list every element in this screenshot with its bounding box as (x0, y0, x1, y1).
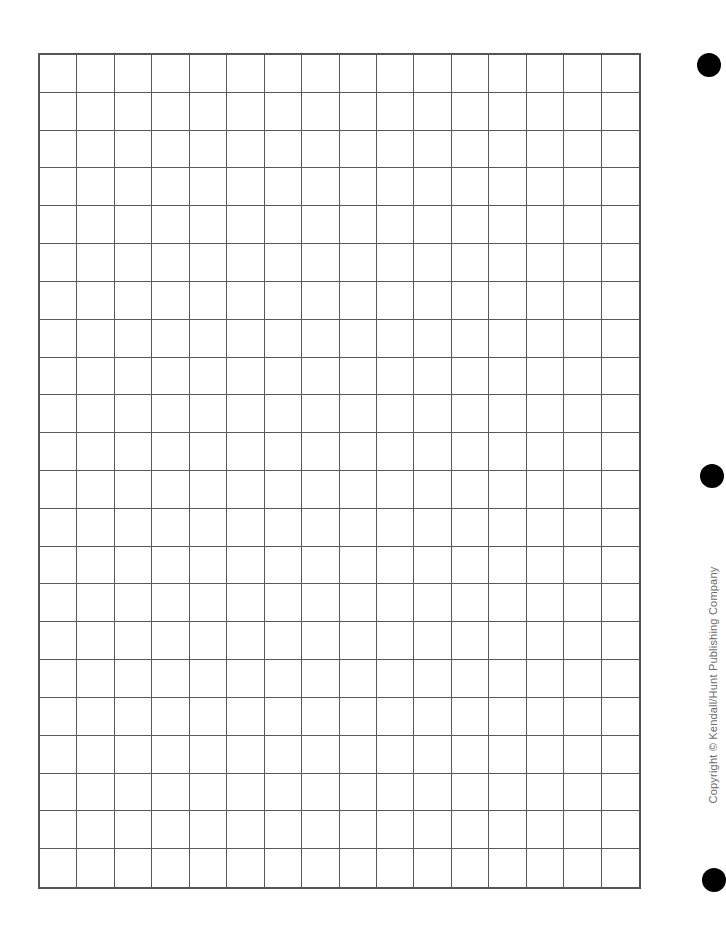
grid-cell (77, 395, 114, 433)
grid-cell (152, 395, 189, 433)
grid-cell (414, 93, 451, 131)
grid-cell (489, 320, 526, 358)
grid-cell (340, 547, 377, 585)
grid-cell (489, 395, 526, 433)
grid-cell (602, 206, 639, 244)
grid-cell (527, 55, 564, 93)
grid-cell (377, 358, 414, 396)
grid-cell (227, 358, 264, 396)
grid-cell (40, 547, 77, 585)
grid-cell (602, 849, 639, 887)
grid-cell (602, 358, 639, 396)
grid-cell (190, 358, 227, 396)
grid-cell (302, 698, 339, 736)
grid-cell (452, 320, 489, 358)
grid-cell (340, 774, 377, 812)
hole-punch-bottom (702, 868, 726, 892)
grid-cell (564, 433, 601, 471)
grid-cell (527, 774, 564, 812)
grid-cell (265, 282, 302, 320)
grid-cell (115, 55, 152, 93)
grid-cell (340, 244, 377, 282)
grid-cell (152, 736, 189, 774)
grid-cell (152, 509, 189, 547)
grid-cell (564, 509, 601, 547)
grid-cell (40, 93, 77, 131)
grid-cell (377, 774, 414, 812)
grid-cell (77, 774, 114, 812)
grid-cell (40, 736, 77, 774)
grid-cell (489, 622, 526, 660)
grid-cell (152, 282, 189, 320)
grid-cell (115, 358, 152, 396)
grid-cell (602, 622, 639, 660)
grid-cell (452, 774, 489, 812)
grid-cell (302, 509, 339, 547)
grid-cell (302, 811, 339, 849)
grid-cell (77, 206, 114, 244)
grid-cell (489, 774, 526, 812)
grid-cell (564, 131, 601, 169)
grid-cell (602, 547, 639, 585)
grid-cell (489, 433, 526, 471)
grid-cell (414, 622, 451, 660)
grid-cell (115, 698, 152, 736)
grid-cell (377, 811, 414, 849)
grid-cell (489, 93, 526, 131)
grid-cell (602, 736, 639, 774)
grid-cell (489, 584, 526, 622)
grid-cell (414, 811, 451, 849)
grid-cell (77, 131, 114, 169)
grid-cell (489, 244, 526, 282)
grid-cell (152, 584, 189, 622)
grid-cell (115, 206, 152, 244)
grid-cell (602, 131, 639, 169)
grid-cell (414, 358, 451, 396)
grid-cell (527, 93, 564, 131)
grid-cell (527, 660, 564, 698)
grid-cell (40, 509, 77, 547)
grid-cell (564, 584, 601, 622)
grid-cell (265, 736, 302, 774)
grid-cell (152, 774, 189, 812)
grid-cell (115, 93, 152, 131)
grid-cell (190, 55, 227, 93)
grid-cell (152, 168, 189, 206)
grid-cell (377, 547, 414, 585)
grid-cell (602, 774, 639, 812)
grid-cell (377, 244, 414, 282)
grid-cell (302, 93, 339, 131)
grid-cell (265, 698, 302, 736)
grid-cell (115, 395, 152, 433)
grid-cell (452, 584, 489, 622)
grid-cell (152, 433, 189, 471)
grid-cell (564, 282, 601, 320)
grid-cell (115, 320, 152, 358)
grid-cell (527, 509, 564, 547)
grid-cell (265, 206, 302, 244)
grid-cell (302, 547, 339, 585)
grid-cell (564, 849, 601, 887)
grid-cell (227, 55, 264, 93)
grid-cell (527, 395, 564, 433)
grid-cell (190, 168, 227, 206)
grid-cell (302, 168, 339, 206)
grid-cell (414, 244, 451, 282)
grid-cell (340, 55, 377, 93)
grid-cell (414, 774, 451, 812)
grid-cell (377, 736, 414, 774)
grid-cell (152, 698, 189, 736)
grid-cell (190, 849, 227, 887)
grid-cell (77, 320, 114, 358)
grid-cell (265, 131, 302, 169)
grid-cell (302, 131, 339, 169)
grid-cell (489, 736, 526, 774)
grid-cell (302, 244, 339, 282)
grid-cell (489, 547, 526, 585)
grid-cell (489, 660, 526, 698)
grid-cell (340, 206, 377, 244)
grid-cell (152, 206, 189, 244)
grid-cell (77, 584, 114, 622)
grid-cell (452, 55, 489, 93)
grid-cell (265, 811, 302, 849)
